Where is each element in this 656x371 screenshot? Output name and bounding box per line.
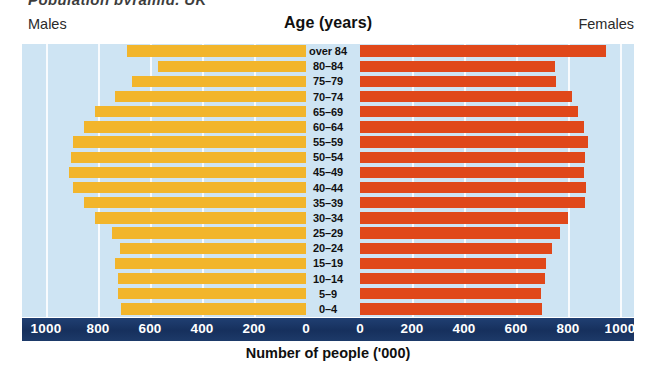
bar-female [360,273,545,284]
axis-tick-left: 400 [172,321,232,336]
bar-male [73,182,306,193]
age-group-label: 0–4 [278,302,378,316]
bar-female [360,303,542,314]
chart-header: Males Age (years) Females [0,16,656,42]
pyramid-row: 55–59 [22,135,634,150]
age-group-label: over 84 [278,44,378,58]
pyramid-row: 70–74 [22,90,634,105]
age-group-label: 30–34 [278,211,378,225]
age-group-label: 20–24 [278,241,378,255]
age-group-label: 15–19 [278,256,378,270]
bar-rows: over 8480–8475–7970–7465–6960–6455–5950–… [22,44,634,317]
pyramid-row: 25–29 [22,226,634,241]
bar-female [360,227,560,238]
pyramid-row: 75–79 [22,74,634,89]
age-group-label: 35–39 [278,196,378,210]
pyramid-row: 0–4 [22,302,634,317]
pyramid-row: 5–9 [22,287,634,302]
age-group-label: 55–59 [278,135,378,149]
pyramid-row: 10–14 [22,272,634,287]
bar-male [95,212,306,223]
bar-female [360,61,555,72]
pyramid-row: 80–84 [22,59,634,74]
females-axis-label: Females [578,16,634,32]
bar-male [95,106,306,117]
population-pyramid-figure: Population pyramid, UK Males Age (years)… [0,0,656,371]
axis-tick-right: 800 [538,321,598,336]
age-axis-title: Age (years) [0,14,656,32]
pyramid-row: over 84 [22,44,634,59]
value-axis-band: 1000800600400200002004006008001000 [22,317,634,341]
age-group-label: 10–14 [278,272,378,286]
axis-tick-left: 200 [224,321,284,336]
axis-tick-right: 600 [486,321,546,336]
bar-female [360,182,586,193]
bar-female [360,136,588,147]
partial-top-caption: Population pyramid, UK [28,0,207,5]
axis-tick-left: 0 [276,321,336,336]
bar-female [360,152,585,163]
age-group-label: 50–54 [278,150,378,164]
pyramid-row: 60–64 [22,120,634,135]
age-group-label: 60–64 [278,120,378,134]
age-group-label: 45–49 [278,165,378,179]
age-group-label: 80–84 [278,59,378,73]
bar-female [360,167,584,178]
pyramid-row: 65–69 [22,105,634,120]
bar-male [73,136,306,147]
axis-tick-right: 1000 [590,321,650,336]
bar-male [69,167,306,178]
pyramid-row: 30–34 [22,211,634,226]
pyramid-row: 15–19 [22,256,634,271]
bar-female [360,91,572,102]
axis-title: Number of people ('000) [0,345,656,361]
axis-tick-left: 1000 [16,321,76,336]
bar-female [360,258,546,269]
bar-female [360,243,552,254]
axis-tick-right: 0 [330,321,390,336]
pyramid-row: 50–54 [22,150,634,165]
axis-tick-right: 200 [382,321,442,336]
bar-female [360,76,556,87]
bar-female [360,106,578,117]
pyramid-row: 45–49 [22,165,634,180]
age-group-label: 25–29 [278,226,378,240]
bar-male [84,197,306,208]
bar-female [360,212,568,223]
age-group-label: 75–79 [278,74,378,88]
pyramid-row: 20–24 [22,241,634,256]
age-group-label: 65–69 [278,105,378,119]
bar-female [360,45,606,56]
bar-female [360,197,585,208]
axis-tick-left: 800 [68,321,128,336]
bar-female [360,288,541,299]
axis-tick-right: 400 [434,321,494,336]
bar-female [360,121,584,132]
bar-male [84,121,306,132]
plot-area: over 8480–8475–7970–7465–6960–6455–5950–… [22,44,634,317]
age-group-label: 70–74 [278,90,378,104]
pyramid-row: 40–44 [22,181,634,196]
age-group-label: 40–44 [278,181,378,195]
pyramid-row: 35–39 [22,196,634,211]
age-group-label: 5–9 [278,287,378,301]
bar-male [71,152,306,163]
axis-tick-left: 600 [120,321,180,336]
bar-male [112,227,306,238]
